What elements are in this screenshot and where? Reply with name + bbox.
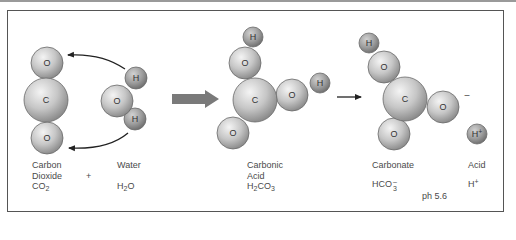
atom-symbol: O bbox=[390, 129, 397, 139]
atom-symbol: O bbox=[439, 102, 446, 112]
caption-co2: Carbon Dioxide CO2 bbox=[32, 160, 62, 192]
atom-symbol: H bbox=[366, 38, 373, 48]
caption-h2o-line1: Water bbox=[117, 160, 141, 171]
atom-symbol: C bbox=[252, 95, 259, 105]
atom-symbol: O bbox=[113, 96, 120, 106]
atom-symbol: O bbox=[241, 58, 248, 68]
atom-symbol: C bbox=[402, 94, 409, 104]
atom-symbol: O bbox=[288, 90, 295, 100]
molecule-co2: OOC bbox=[24, 47, 68, 154]
molecule-h2o: HHO bbox=[101, 67, 147, 130]
atom-symbol: H bbox=[132, 114, 139, 124]
curved-arrow-bottom bbox=[69, 133, 128, 148]
caption-h2co3: Carbonic Acid H2CO3 bbox=[247, 160, 283, 192]
formula-h2o: H2O bbox=[117, 181, 141, 192]
atom-symbol: H bbox=[133, 73, 140, 83]
caption-co2-line1: Carbon bbox=[32, 160, 62, 171]
formula-h2co3: H2CO3 bbox=[247, 181, 283, 192]
reaction-arrow-big bbox=[172, 90, 219, 108]
ph-label: ph 5.6 bbox=[422, 191, 447, 202]
atom-symbol: O bbox=[380, 62, 387, 72]
caption-hco3: Carbonate HCO–3 bbox=[372, 160, 414, 189]
caption-acid: Acid H+ bbox=[468, 160, 486, 189]
caption-hco3-line1: Carbonate bbox=[372, 160, 414, 171]
caption-h2o: Water H2O bbox=[117, 160, 141, 192]
atom-symbol: H bbox=[317, 78, 324, 88]
atom-symbol: C bbox=[43, 95, 50, 105]
plus-sign: + bbox=[86, 171, 91, 182]
molecule-h_plus: H+ bbox=[467, 124, 487, 144]
negative-charge: – bbox=[464, 90, 469, 100]
atom-symbol: O bbox=[43, 58, 50, 68]
curved-arrow-top bbox=[68, 55, 125, 69]
molecule-h2co3: HHOOOC bbox=[217, 27, 330, 149]
atom-symbol: H bbox=[250, 32, 257, 42]
formula-hco3: HCO–3 bbox=[372, 179, 414, 190]
molecule-hco3: HOOOC bbox=[359, 33, 459, 150]
caption-h2co3-line2: Acid bbox=[247, 171, 283, 182]
formula-co2: CO2 bbox=[32, 181, 62, 192]
formula-h-plus: H+ bbox=[468, 179, 486, 190]
caption-co2-line2: Dioxide bbox=[32, 171, 62, 182]
caption-acid-line1: Acid bbox=[468, 160, 486, 171]
atom-symbol: O bbox=[43, 133, 50, 143]
atom-symbol: O bbox=[229, 128, 236, 138]
atoms-layer: OOCHHOHHOOOCHOOOCH+ bbox=[24, 27, 487, 154]
caption-h2co3-line1: Carbonic bbox=[247, 160, 283, 171]
